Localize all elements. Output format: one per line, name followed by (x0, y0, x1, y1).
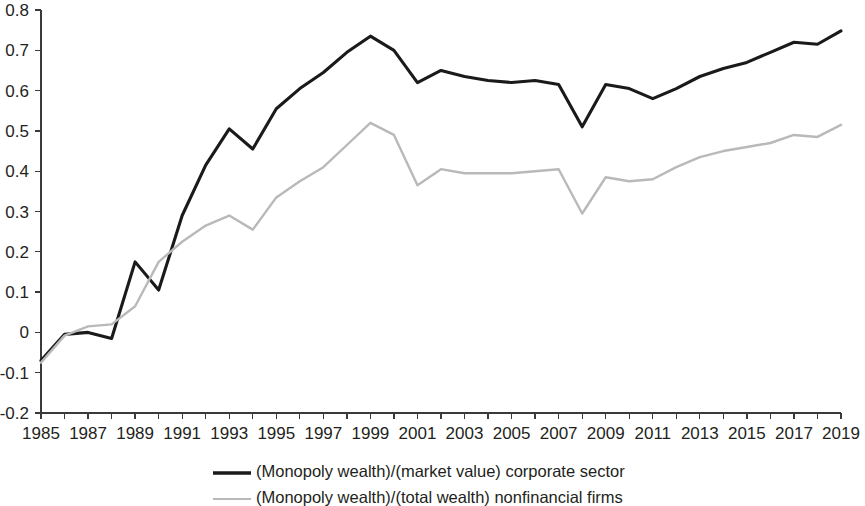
x-axis-tick-label: 1995 (257, 424, 295, 443)
x-axis-tick-label: 1987 (69, 424, 107, 443)
series-line-0 (41, 31, 841, 361)
x-axis-tick-label: 1989 (116, 424, 154, 443)
x-axis-tick-label: 2013 (681, 424, 719, 443)
x-axis-tick-label: 1991 (163, 424, 201, 443)
x-axis-tick-label: 1997 (304, 424, 342, 443)
series-group (41, 31, 841, 363)
y-axis-tick-label: -0.1 (0, 364, 29, 383)
y-axis-tick-label: 0.1 (5, 283, 29, 302)
x-axis-tick-label: 2019 (822, 424, 860, 443)
y-axis-tick-label: 0.4 (5, 162, 29, 181)
y-axis-tick-group: -0.2-0.100.10.20.30.40.50.60.70.8 (0, 1, 41, 423)
legend-label-1: (Monopoly wealth)/(total wealth) nonfina… (256, 488, 623, 506)
x-axis-tick-label: 2009 (587, 424, 625, 443)
y-axis-tick-label: 0.8 (5, 1, 29, 20)
line-chart: -0.2-0.100.10.20.30.40.50.60.70.8 198519… (0, 0, 865, 506)
x-axis-tick-label: 2003 (446, 424, 484, 443)
x-axis-tick-label: 1985 (22, 424, 60, 443)
x-axis-tick-label: 2005 (493, 424, 531, 443)
y-axis-tick-label: 0.2 (5, 243, 29, 262)
y-axis-tick-label: 0 (20, 323, 29, 342)
chart-legend: (Monopoly wealth)/(market value) corpora… (213, 462, 625, 506)
y-axis-tick-label: -0.2 (0, 404, 29, 423)
y-axis-tick-label: 0.7 (5, 41, 29, 60)
legend-label-0: (Monopoly wealth)/(market value) corpora… (256, 462, 625, 480)
x-axis-tick-label: 2007 (540, 424, 578, 443)
x-axis-tick-group: 1985198719891991199319951997199920012003… (22, 413, 860, 443)
x-axis-tick-label: 1999 (351, 424, 389, 443)
y-axis-tick-label: 0.3 (5, 203, 29, 222)
series-line-1 (41, 123, 841, 363)
y-axis-tick-label: 0.6 (5, 82, 29, 101)
x-axis-tick-label: 2017 (775, 424, 813, 443)
y-axis-tick-label: 0.5 (5, 122, 29, 141)
x-axis-tick-label: 1993 (210, 424, 248, 443)
chart-container: -0.2-0.100.10.20.30.40.50.60.70.8 198519… (0, 0, 865, 506)
x-axis-tick-label: 2015 (728, 424, 766, 443)
x-axis-tick-label: 2001 (399, 424, 437, 443)
x-axis-tick-label: 2011 (634, 424, 671, 443)
